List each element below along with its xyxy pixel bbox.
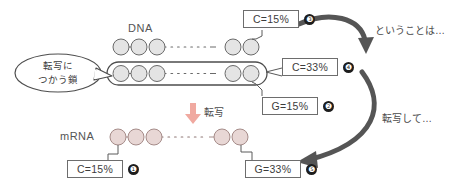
badge-2-number: ❷ [323,101,334,112]
bubble-line-1: 転写に [28,60,88,72]
badge-3-number: ❸ [304,14,315,25]
dna-label: DNA [128,22,153,34]
mrna-label: mRNA [60,130,94,142]
badge-5-number: ❺ [306,164,317,175]
mrna-strand [110,129,248,145]
note-bottom-right: 転写して… [382,110,432,125]
transcription-arrow-pink [185,103,201,124]
badge-1-number: ❶ [128,164,139,175]
flow-arrow-bottom [297,72,374,168]
dna-coding-strand [113,39,259,55]
dna-template-strand [107,62,267,85]
note-top-right: ということは… [375,22,445,37]
badge-4-number: ❹ [343,62,354,73]
badge-3-box: C=15% [243,10,299,28]
badge-4-box: C=33% [282,58,338,76]
bubble-line-2: つかう鎖 [22,74,94,86]
badge-5-box: G=33% [245,160,301,178]
badge-1-box: C=15% [67,160,123,178]
transcription-diagram: DNA mRNA 転写に つかう鎖 転写 ということは… 転写して… C=15%… [0,0,459,191]
transcription-label: 転写 [204,104,224,119]
badge-2-box: G=15% [262,97,318,115]
